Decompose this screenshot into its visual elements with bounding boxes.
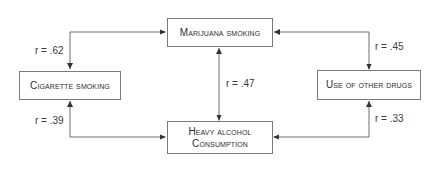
edge-label-marijuana-other-drugs: r = .45 [375,41,404,52]
correlation-diagram: Marijuana smoking Cigarette smoking Use … [0,0,438,173]
edge-other-drugs-alcohol [274,101,369,137]
node-cigarette-smoking: Cigarette smoking [19,71,121,100]
node-label-line1: Heavy alcohol [189,126,252,138]
edge-label-marijuana-alcohol: r = .47 [226,78,255,89]
edge-cigarette-alcohol [70,101,165,137]
edge-label-cigarette-marijuana: r = .62 [35,45,64,56]
edge-label-other-drugs-alcohol: r = .33 [375,113,404,124]
node-label: Marijuana smoking [180,27,260,39]
node-label-line2: Consumption [192,138,248,150]
arrowhead-icon [67,101,73,107]
arrowhead-icon [274,29,280,35]
node-heavy-alcohol-consumption: Heavy alcohol Consumption [167,121,273,154]
arrowhead-icon [67,63,73,69]
arrowhead-icon [216,48,222,54]
node-label: Use of other drugs [326,79,412,91]
edge-cigarette-marijuana [70,32,165,69]
node-marijuana-smoking: Marijuana smoking [167,18,273,47]
edge-marijuana-other-drugs [274,32,369,69]
edge-label-cigarette-alcohol: r = .39 [35,115,64,126]
node-label: Cigarette smoking [30,80,110,92]
arrowhead-icon [366,101,372,107]
node-use-of-other-drugs: Use of other drugs [317,70,421,100]
